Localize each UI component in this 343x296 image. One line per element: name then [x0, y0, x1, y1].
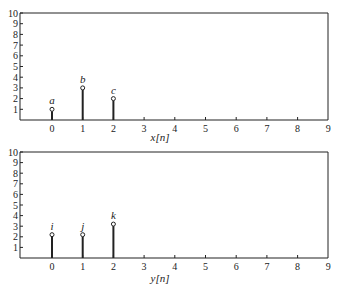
x-tick-label: 1 — [80, 123, 85, 134]
x-tick-label: 8 — [295, 123, 300, 134]
y-tick-label: 2 — [13, 93, 18, 104]
x-tick-label: 4 — [172, 261, 177, 272]
x-axis-title: y[n] — [150, 272, 170, 284]
x-tick-label: 4 — [172, 123, 177, 134]
x-tick-label: 9 — [326, 261, 331, 272]
point-label: a — [49, 94, 55, 106]
point-label: i — [50, 220, 53, 232]
x-tick-label: 0 — [50, 261, 55, 272]
x-tick-label: 1 — [80, 261, 85, 272]
stem-marker — [81, 86, 85, 90]
y-tick-label: 3 — [13, 221, 18, 232]
x-tick-label: 7 — [264, 123, 269, 134]
x-tick-label: 2 — [111, 123, 116, 134]
x-tick-label: 6 — [234, 123, 239, 134]
x-tick-label: 8 — [295, 261, 300, 272]
y-tick-label: 9 — [13, 157, 18, 168]
y-tick-label: 8 — [13, 168, 18, 179]
x-tick-label: 7 — [264, 261, 269, 272]
stem-marker — [111, 97, 115, 101]
y-tick-label: 4 — [13, 210, 18, 221]
point-label: b — [80, 73, 86, 85]
stem-plot-1: 123456789100123456789abcx[n] — [8, 8, 331, 144]
stem-plots: 123456789100123456789abcx[n]123456789100… — [0, 0, 343, 296]
y-tick-label: 1 — [13, 242, 18, 253]
x-tick-label: 3 — [142, 261, 147, 272]
y-tick-label: 1 — [13, 104, 18, 115]
plot-frame — [20, 13, 328, 120]
y-tick-label: 9 — [13, 18, 18, 29]
y-tick-label: 7 — [13, 178, 18, 189]
x-axis-title: x[n] — [150, 131, 170, 143]
x-tick-label: 9 — [326, 123, 331, 134]
x-tick-label: 2 — [111, 261, 116, 272]
stem-marker — [111, 222, 115, 226]
y-tick-label: 4 — [13, 72, 18, 83]
y-tick-label: 7 — [13, 40, 18, 51]
point-label: j — [79, 220, 84, 232]
plot-frame — [20, 152, 328, 258]
y-tick-label: 5 — [13, 200, 18, 211]
stem-marker — [81, 233, 85, 237]
y-tick-label: 8 — [13, 29, 18, 40]
y-tick-label: 2 — [13, 231, 18, 242]
x-tick-label: 5 — [203, 123, 208, 134]
y-tick-label: 5 — [13, 61, 18, 72]
x-tick-label: 5 — [203, 261, 208, 272]
x-tick-label: 0 — [50, 123, 55, 134]
x-tick-label: 6 — [234, 261, 239, 272]
y-tick-label: 10 — [8, 147, 18, 158]
y-tick-label: 6 — [13, 189, 18, 200]
stem-plot-2: 123456789100123456789ijky[n] — [8, 147, 331, 285]
y-tick-label: 10 — [8, 8, 18, 19]
stem-marker — [50, 233, 54, 237]
point-label: k — [111, 209, 117, 221]
y-tick-label: 3 — [13, 82, 18, 93]
stem-marker — [50, 107, 54, 111]
y-tick-label: 6 — [13, 50, 18, 61]
x-tick-label: 3 — [142, 123, 147, 134]
point-label: c — [111, 84, 116, 96]
